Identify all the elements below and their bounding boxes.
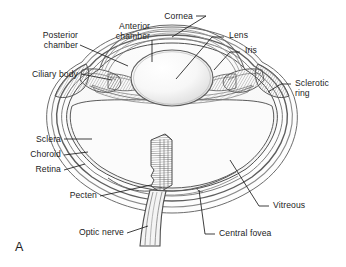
label-posterior-chamber-line1: Posterior: [0, 30, 78, 40]
label-posterior-chamber: Posterior chamber: [0, 30, 78, 50]
label-vitreous-line1: Vitreous: [273, 200, 343, 210]
label-optic-nerve-line1: Optic nerve: [40, 227, 124, 237]
label-anterior-chamber-line2: chamber: [72, 31, 150, 41]
label-optic-nerve: Optic nerve: [40, 227, 124, 237]
label-posterior-chamber-line2: chamber: [0, 40, 78, 50]
label-iris: Iris: [245, 45, 285, 55]
label-sclera-line1: Sclera: [0, 134, 61, 144]
label-ciliary-body: Ciliary body: [0, 69, 78, 79]
label-sclerotic-ring: Sclerotic ring: [295, 78, 345, 98]
label-iris-line1: Iris: [245, 45, 285, 55]
label-pecten-line1: Pecten: [20, 190, 97, 200]
label-sclerotic-ring-line1: Sclerotic: [295, 78, 345, 88]
label-central-fovea-line1: Central fovea: [219, 228, 309, 238]
label-choroid-line1: Choroid: [0, 149, 61, 159]
label-retina: Retina: [0, 164, 61, 174]
label-anterior-chamber: Anterior chamber: [72, 21, 150, 41]
label-cornea: Cornea: [133, 11, 193, 21]
label-choroid: Choroid: [0, 149, 61, 159]
lens: [131, 50, 213, 106]
label-ciliary-body-line1: Ciliary body: [0, 69, 78, 79]
label-sclera: Sclera: [0, 134, 61, 144]
pecten: [151, 134, 172, 192]
panel-label: A: [15, 240, 24, 254]
label-cornea-line1: Cornea: [133, 11, 193, 21]
label-vitreous: Vitreous: [273, 200, 343, 210]
label-central-fovea: Central fovea: [219, 228, 309, 238]
label-retina-line1: Retina: [0, 164, 61, 174]
label-lens-line1: Lens: [229, 30, 279, 40]
eye-anatomy-figure: Posterior chamber Anterior chamber Corne…: [0, 0, 346, 267]
label-pecten: Pecten: [20, 190, 97, 200]
label-sclerotic-ring-line2: ring: [295, 88, 345, 98]
label-anterior-chamber-line1: Anterior: [72, 21, 150, 31]
label-lens: Lens: [229, 30, 279, 40]
